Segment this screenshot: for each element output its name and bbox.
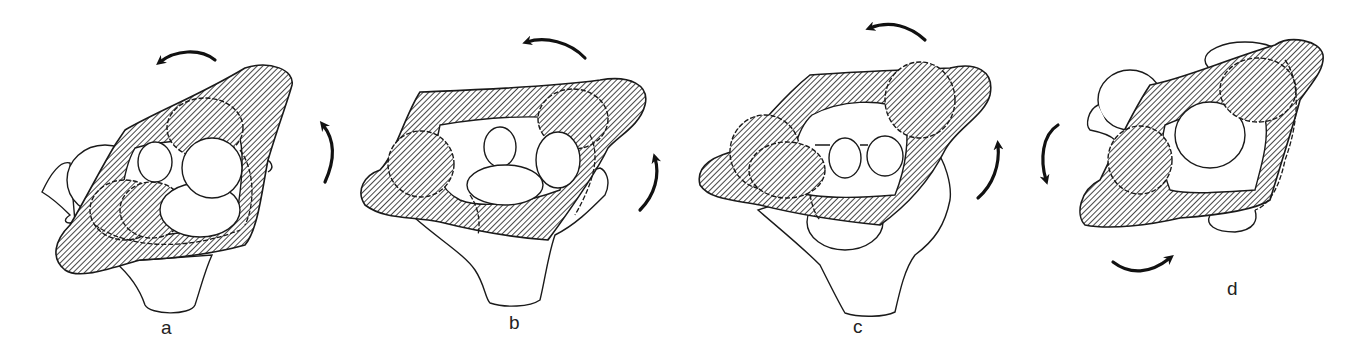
right-circle <box>867 136 903 176</box>
panel-label-c: c <box>853 317 863 336</box>
panel-label-b: b <box>509 313 520 332</box>
panel-d <box>1043 40 1323 271</box>
rotation-arrow-top <box>870 24 925 40</box>
right-circle <box>536 132 580 188</box>
lower-circle <box>467 165 543 205</box>
panel-label-a: a <box>161 318 172 337</box>
hatched-circle-left <box>388 131 454 197</box>
small-circle <box>138 142 172 182</box>
rotation-arrow-top <box>160 52 215 62</box>
right-circle <box>182 138 242 198</box>
panel-a <box>42 52 332 313</box>
hatched-circle-center <box>749 142 825 198</box>
rotation-arrow-right <box>640 158 657 210</box>
diagram-canvas <box>0 0 1359 352</box>
rotation-arrow-right <box>323 125 332 182</box>
four-panel-diagram: a b c d <box>0 0 1359 352</box>
panel-c <box>699 24 998 316</box>
hatched-circle-top <box>885 62 955 138</box>
small-circle <box>484 127 516 167</box>
panel-b <box>361 40 657 306</box>
hatched-circle-left <box>1108 126 1172 194</box>
panel-label-d: d <box>1227 279 1238 298</box>
hatched-circle-top <box>1220 58 1296 122</box>
rotation-arrow-top <box>527 40 585 58</box>
rotation-arrow-bottom <box>1113 258 1170 271</box>
rotation-arrow-left <box>1043 125 1058 180</box>
rotation-arrow-right <box>978 145 998 198</box>
small-circle <box>829 138 861 178</box>
